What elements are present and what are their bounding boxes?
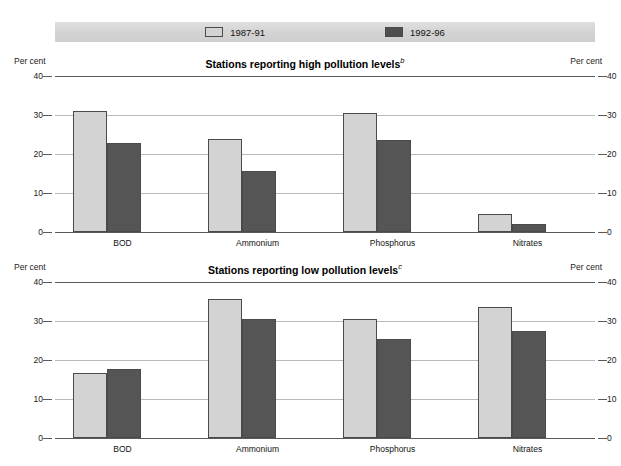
bar-phosphorus-1992-96-high[interactable] [377, 140, 411, 232]
bar-bod-1987-91-high[interactable] [73, 111, 107, 232]
ytick-left-10-high: 10 [13, 189, 43, 198]
tick-mark-right-40-high [598, 76, 607, 77]
category-label-bod-high: BOD [55, 238, 190, 248]
tick-mark-left-30-low [43, 321, 52, 322]
ytick-right-10-high: 10 [607, 189, 621, 198]
ytick-right-0-high: 0 [607, 228, 621, 237]
per-cent-caption-left-high: Per cent [14, 56, 46, 66]
tick-mark-left-20-low [43, 360, 52, 361]
bar-group-phosphorus-high: Phosphorus [325, 76, 460, 232]
tick-mark-left-0-high [43, 232, 52, 233]
ytick-right-30-high: 30 [607, 111, 621, 120]
ytick-left-0-low: 0 [13, 434, 43, 443]
ytick-right-30-low: 30 [607, 317, 621, 326]
legend-label-1987-91: 1987-91 [230, 27, 265, 38]
ytick-right-10-low: 10 [607, 395, 621, 404]
bar-nitrates-1992-96-high[interactable] [512, 224, 546, 232]
bar-group-phosphorus-low: Phosphorus [325, 282, 460, 438]
chart-high-title-note: b [400, 56, 404, 65]
gridline-0-high [55, 232, 595, 233]
bar-ammonium-1992-96-low[interactable] [242, 319, 276, 438]
category-label-ammonium-low: Ammonium [190, 444, 325, 454]
category-label-nitrates-low: Nitrates [460, 444, 595, 454]
ytick-left-20-low: 20 [13, 356, 43, 365]
legend-entry-1987-91: 1987-91 [205, 27, 265, 38]
tick-mark-left-30-high [43, 115, 52, 116]
legend-swatch-icon-dark [385, 27, 403, 37]
tick-mark-left-10-high [43, 193, 52, 194]
ytick-left-30-high: 30 [13, 111, 43, 120]
bar-group-ammonium-low: Ammonium [190, 282, 325, 438]
per-cent-caption-right-low: Per cent [570, 262, 602, 272]
bar-group-ammonium-high: Ammonium [190, 76, 325, 232]
tick-mark-right-30-high [598, 115, 607, 116]
tick-mark-left-0-low [43, 438, 52, 439]
category-label-nitrates-high: Nitrates [460, 238, 595, 248]
per-cent-caption-left-low: Per cent [14, 262, 46, 272]
tick-mark-right-40-low [598, 282, 607, 283]
category-label-ammonium-high: Ammonium [190, 238, 325, 248]
chart-high-title: Stations reporting high pollution levels… [0, 56, 610, 70]
bar-nitrates-1987-91-high[interactable] [478, 214, 512, 232]
bar-group-bod-high: BOD [55, 76, 190, 232]
legend-label-1992-96: 1992-96 [410, 27, 445, 38]
category-label-bod-low: BOD [55, 444, 190, 454]
tick-mark-right-0-low [598, 438, 607, 439]
ytick-right-20-high: 20 [607, 150, 621, 159]
bar-ammonium-1992-96-high[interactable] [242, 171, 276, 232]
bar-ammonium-1987-91-high[interactable] [208, 139, 242, 232]
bar-nitrates-1987-91-low[interactable] [478, 307, 512, 438]
ytick-right-0-low: 0 [607, 434, 621, 443]
tick-mark-left-20-high [43, 154, 52, 155]
chart-low-title: Stations reporting low pollution levelsc [0, 262, 610, 276]
ytick-right-20-low: 20 [607, 356, 621, 365]
bar-bod-1992-96-low[interactable] [107, 369, 141, 438]
bar-nitrates-1992-96-low[interactable] [512, 331, 546, 438]
ytick-right-40-low: 40 [607, 278, 621, 287]
gridline-0-low [55, 438, 595, 439]
tick-mark-left-10-low [43, 399, 52, 400]
bar-group-bod-low: BOD [55, 282, 190, 438]
chart-low-title-note: c [398, 262, 402, 271]
ytick-left-40-high: 40 [13, 72, 43, 81]
category-label-phosphorus-low: Phosphorus [325, 444, 460, 454]
legend-swatch-icon-light [205, 27, 223, 37]
plot-area-high: 40 30 20 10 0 40 30 20 10 0 BOD Ammonium… [55, 76, 595, 232]
ytick-left-30-low: 30 [13, 317, 43, 326]
tick-mark-right-30-low [598, 321, 607, 322]
tick-mark-right-10-low [598, 399, 607, 400]
bar-phosphorus-1987-91-low[interactable] [343, 319, 377, 438]
bar-bod-1987-91-low[interactable] [73, 373, 107, 439]
bar-phosphorus-1987-91-high[interactable] [343, 113, 377, 232]
legend-entry-1992-96: 1992-96 [385, 27, 445, 38]
tick-mark-left-40-high [43, 76, 52, 77]
category-label-phosphorus-high: Phosphorus [325, 238, 460, 248]
bar-group-nitrates-high: Nitrates [460, 76, 595, 232]
ytick-left-20-high: 20 [13, 150, 43, 159]
ytick-right-40-high: 40 [607, 72, 621, 81]
per-cent-caption-right-high: Per cent [570, 56, 602, 66]
tick-mark-left-40-low [43, 282, 52, 283]
bar-phosphorus-1992-96-low[interactable] [377, 339, 411, 439]
ytick-left-40-low: 40 [13, 278, 43, 287]
chart-legend: 1987-91 1992-96 [55, 22, 595, 42]
tick-mark-right-20-low [598, 360, 607, 361]
chart-high-title-text: Stations reporting high pollution levels [205, 58, 400, 70]
bar-group-nitrates-low: Nitrates [460, 282, 595, 438]
bar-ammonium-1987-91-low[interactable] [208, 299, 242, 438]
bar-bod-1992-96-high[interactable] [107, 143, 141, 232]
ytick-left-10-low: 10 [13, 395, 43, 404]
tick-mark-right-0-high [598, 232, 607, 233]
plot-area-low: 40 30 20 10 0 40 30 20 10 0 BOD Ammonium… [55, 282, 595, 438]
tick-mark-right-10-high [598, 193, 607, 194]
tick-mark-right-20-high [598, 154, 607, 155]
chart-low-title-text: Stations reporting low pollution levels [208, 264, 398, 276]
ytick-left-0-high: 0 [13, 228, 43, 237]
